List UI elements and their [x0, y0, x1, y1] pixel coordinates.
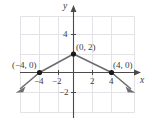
point-vertex — [71, 51, 76, 56]
point-right-intercept — [109, 70, 114, 75]
y-axis-label: y — [63, 2, 67, 12]
y-tick-label-minus2: −2 — [59, 88, 69, 97]
point-label-left-intercept: (−4, 0) — [12, 61, 37, 70]
x-tick-label-minus2: −2 — [52, 77, 62, 86]
point-label-vertex: (0, 2) — [76, 43, 96, 52]
x-tick-label-2: 2 — [90, 77, 95, 86]
point-left-intercept — [37, 70, 42, 75]
graph-figure: y x −4 −2 2 4 4 −2 (−4, 0) (0, 2) (4, 0) — [0, 0, 152, 125]
x-tick-label-4: 4 — [109, 77, 114, 86]
x-axis-label: x — [140, 76, 144, 86]
x-tick-label-minus4: −4 — [34, 77, 44, 86]
point-label-right-intercept: (4, 0) — [113, 61, 133, 70]
y-tick-label-4: 4 — [63, 30, 68, 39]
y-axis-arrow — [71, 5, 77, 12]
